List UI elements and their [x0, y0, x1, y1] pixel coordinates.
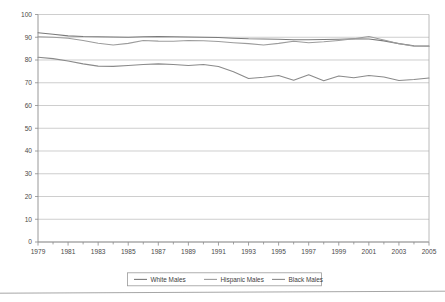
x-tick-label-1983: 1983 [91, 248, 106, 255]
y-tick-label-30: 30 [25, 170, 33, 177]
x-tick-label-1993: 1993 [241, 248, 256, 255]
y-tick-label-90: 90 [25, 34, 33, 41]
legend-label-hispanic-males: Hispanic Males [221, 276, 264, 284]
y-tick-label-50: 50 [25, 125, 33, 132]
x-tick-label-1985: 1985 [121, 248, 136, 255]
x-tick-label-1999: 1999 [331, 248, 346, 255]
line-chart-figure: 0102030405060708090100 19791981198319851… [0, 0, 445, 302]
legend-label-black-males: Black Males [289, 276, 323, 283]
x-tick-label-1991: 1991 [211, 248, 226, 255]
y-tick-label-10: 10 [25, 216, 33, 223]
x-tick-label-2001: 2001 [362, 248, 377, 255]
x-tick-label-1979: 1979 [31, 248, 46, 255]
x-tick-label-2003: 2003 [392, 248, 407, 255]
x-tick-label-1987: 1987 [151, 248, 166, 255]
x-tick-label-2005: 2005 [422, 248, 437, 255]
y-tick-label-40: 40 [25, 147, 33, 154]
x-tick-label-1989: 1989 [181, 248, 196, 255]
x-tick-label-1997: 1997 [301, 248, 316, 255]
y-tick-label-0: 0 [28, 238, 32, 245]
legend-label-white-males: White Males [151, 276, 186, 283]
y-tick-label-100: 100 [21, 11, 32, 18]
y-tick-label-20: 20 [25, 193, 33, 200]
chart-canvas: 0102030405060708090100 19791981198319851… [0, 0, 445, 302]
x-tick-label-1981: 1981 [61, 248, 76, 255]
y-tick-label-60: 60 [25, 102, 33, 109]
y-tick-label-70: 70 [25, 79, 33, 86]
y-tick-label-80: 80 [25, 56, 33, 63]
x-tick-label-1995: 1995 [271, 248, 286, 255]
